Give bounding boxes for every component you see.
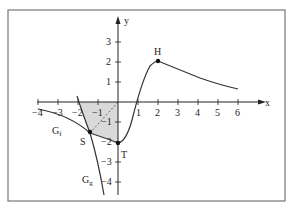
x-tick-label: 2 bbox=[155, 107, 160, 118]
x-tick-label: 6 bbox=[235, 107, 240, 118]
point-S bbox=[88, 130, 92, 134]
x-axis-label: x bbox=[265, 97, 270, 108]
x-tick-label: 4 bbox=[195, 107, 200, 118]
y-tick-label: 1 bbox=[106, 76, 111, 87]
x-tick-label: 1 bbox=[136, 107, 141, 118]
point-H bbox=[156, 59, 160, 63]
y-tick-label: 2 bbox=[106, 56, 111, 67]
x-tick-label: −4 bbox=[32, 107, 43, 118]
y-tick-label: 3 bbox=[106, 36, 111, 47]
x-tick-label: 3 bbox=[175, 107, 180, 118]
label-T: T bbox=[121, 149, 127, 160]
y-axis-label: y bbox=[124, 15, 129, 26]
y-tick-label: −1 bbox=[101, 116, 112, 127]
x-tick-label: 5 bbox=[215, 107, 220, 118]
function-graph: −4 −3 −2 −1 1 2 3 4 5 6 3 2 1 −1 −2 −3 −… bbox=[0, 0, 293, 211]
frame bbox=[8, 10, 285, 201]
point-T bbox=[116, 141, 120, 145]
y-tick-label: −3 bbox=[101, 156, 112, 167]
label-S: S bbox=[80, 136, 86, 147]
label-H: H bbox=[154, 46, 161, 57]
